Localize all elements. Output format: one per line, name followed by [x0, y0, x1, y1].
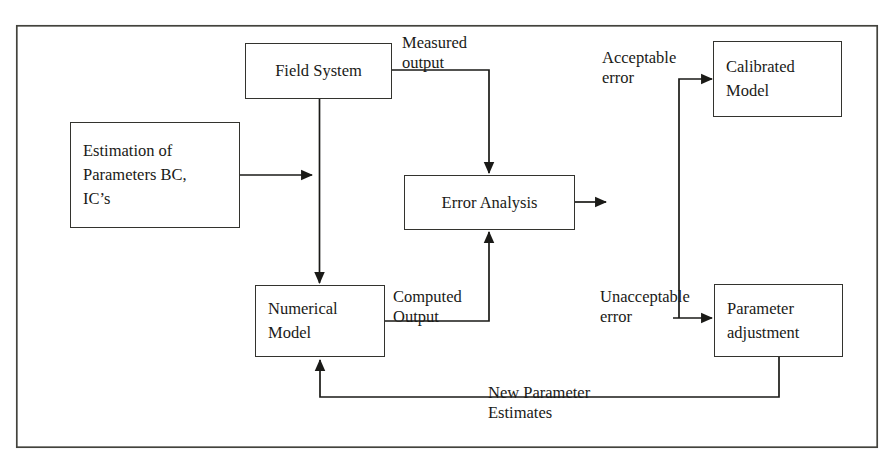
node-estimation-of-parameters[interactable]: Estimation of Parameters BC, IC’s: [70, 122, 240, 228]
edge-label-acceptable-error-line-0: Acceptable: [602, 48, 676, 68]
edge-label-acceptable-error-line-1: error: [602, 68, 676, 88]
edge-label-measured-output: Measured output: [402, 33, 467, 73]
figure-canvas: Field System Estimation of Parameters BC…: [0, 0, 895, 465]
node-calibrated-model[interactable]: Calibrated Model: [713, 41, 842, 117]
node-parameter-adjustment[interactable]: Parameter adjustment: [714, 284, 843, 357]
edge-label-computed-output: Computed Output: [393, 287, 462, 327]
edge-label-measured-output-line-0: Measured: [402, 33, 467, 53]
node-parameter-adjustment-line-1: adjustment: [715, 321, 811, 345]
node-field-system[interactable]: Field System: [245, 43, 392, 99]
edge-label-computed-output-line-0: Computed: [393, 287, 462, 307]
node-numerical-model-line-0: Numerical: [256, 297, 350, 321]
edge-label-unacceptable-error-line-1: error: [600, 307, 690, 327]
node-numerical-model[interactable]: Numerical Model: [255, 285, 385, 357]
edge-label-unacceptable-error-line-0: Unacceptable: [600, 287, 690, 307]
connector-field-system-to-error-analysis: [392, 70, 489, 173]
edge-label-new-parameter-estimates-line-0: New Parameter: [488, 383, 590, 403]
node-field-system-line-0: Field System: [263, 59, 374, 83]
edge-label-measured-output-line-1: output: [402, 53, 467, 73]
edge-label-new-parameter-estimates-line-1: Estimates: [488, 403, 590, 423]
edge-label-unacceptable-error: Unacceptable error: [600, 287, 690, 327]
node-error-analysis-line-0: Error Analysis: [430, 191, 550, 215]
node-error-analysis[interactable]: Error Analysis: [404, 175, 575, 230]
node-numerical-model-line-1: Model: [256, 321, 323, 345]
edge-label-acceptable-error: Acceptable error: [602, 48, 676, 88]
edge-label-computed-output-line-1: Output: [393, 307, 462, 327]
node-calibrated-model-line-1: Model: [714, 79, 781, 103]
node-calibrated-model-line-0: Calibrated: [714, 55, 807, 79]
node-estimation-of-parameters-line-2: IC’s: [71, 187, 123, 211]
connector-acceptable-error-to-calibrated-model: [679, 79, 712, 318]
node-parameter-adjustment-line-0: Parameter: [715, 297, 806, 321]
node-estimation-of-parameters-line-0: Estimation of: [71, 139, 184, 163]
edge-label-new-parameter-estimates: New Parameter Estimates: [488, 383, 590, 423]
node-estimation-of-parameters-line-1: Parameters BC,: [71, 163, 199, 187]
